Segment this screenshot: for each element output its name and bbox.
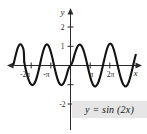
x-tick-label-pi: π xyxy=(90,70,94,79)
equation-label-box: y = sin (2x) xyxy=(72,101,147,118)
y-axis-label: y xyxy=(60,7,65,17)
x-tick-label-minus-2pi: -2π xyxy=(20,70,30,79)
x-tick-label-2pi: 2π xyxy=(107,70,115,79)
x-axis-left-arrow-icon xyxy=(7,63,14,69)
sine-curve-left-tail xyxy=(14,44,25,64)
y-tick-label-minus-2: -2 xyxy=(59,100,65,109)
y-tick-label-1: 1 xyxy=(61,42,65,51)
x-tick-label-minus-pi: -π xyxy=(43,70,49,79)
sine-function-figure: -2π -π π 2π 2 1 -2 y x y = sin (2x) xyxy=(0,0,147,134)
y-axis-top-arrow-icon xyxy=(68,8,74,15)
equation-text: y = sin (2x) xyxy=(85,104,134,115)
y-tick-label-2: 2 xyxy=(61,23,65,32)
x-axis-label: x xyxy=(133,68,138,78)
